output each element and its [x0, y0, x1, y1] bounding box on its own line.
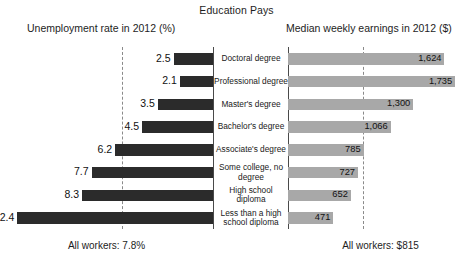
unemployment-value-label: 4.5: [124, 120, 139, 132]
earnings-cell: 1,066: [288, 116, 473, 139]
left-axis-title: Unemployment rate in 2012 (%): [27, 22, 175, 34]
earnings-value-label: 471: [315, 212, 334, 222]
category-label: Master's degree: [214, 93, 288, 116]
unemployment-cell: 4.5: [0, 116, 213, 139]
unemployment-value-label: 2.5: [156, 52, 171, 64]
chart-row: 6.2Associate's degree785: [0, 139, 473, 162]
category-label: Some college, no degree: [214, 161, 288, 184]
earnings-cell: 785: [288, 139, 473, 162]
unemployment-value-label: 6.2: [98, 143, 113, 155]
unemployment-bar: [180, 76, 213, 88]
left-footnote: All workers: 7.8%: [0, 240, 213, 251]
plot-area: 2.5Doctoral degree1,6242.1Professional d…: [0, 47, 473, 229]
earnings-value-label: 1,300: [387, 98, 413, 108]
unemployment-value-label: 8.3: [64, 188, 79, 200]
unemployment-value-label: 7.7: [74, 165, 89, 177]
education-pays-chart: Education Pays Unemployment rate in 2012…: [0, 0, 473, 271]
unemployment-bar: [158, 99, 213, 111]
unemployment-cell: 3.5: [0, 93, 213, 116]
chart-row: 2.1Professional degree1,735: [0, 70, 473, 93]
chart-row: 3.5Master's degree1,300: [0, 93, 473, 116]
unemployment-bar: [92, 167, 213, 179]
unemployment-bar: [174, 53, 213, 65]
earnings-value-label: 1,624: [418, 53, 444, 63]
chart-row: 2.5Doctoral degree1,624: [0, 48, 473, 71]
chart-title: Education Pays: [0, 4, 473, 16]
earnings-value-label: 785: [345, 144, 364, 154]
unemployment-bar: [142, 121, 213, 133]
right-axis-title: Median weekly earnings in 2012 ($): [286, 22, 452, 34]
earnings-value-label: 652: [332, 189, 351, 199]
category-label: Doctoral degree: [214, 48, 288, 71]
category-label: Professional degree: [214, 70, 288, 93]
unemployment-bar: [115, 144, 213, 156]
chart-row: 4.5Bachelor's degree1,066: [0, 116, 473, 139]
earnings-cell: 1,300: [288, 93, 473, 116]
earnings-cell: 1,624: [288, 48, 473, 71]
unemployment-value-label: 3.5: [140, 97, 155, 109]
unemployment-cell: 12.4: [0, 207, 213, 230]
right-footnote: All workers: $815: [288, 240, 473, 251]
unemployment-cell: 2.1: [0, 70, 213, 93]
unemployment-value-label: 12.4: [0, 211, 14, 223]
earnings-value-label: 727: [340, 167, 359, 177]
earnings-cell: 471: [288, 207, 473, 230]
chart-row: 8.3High school diploma652: [0, 184, 473, 207]
earnings-cell: 727: [288, 161, 473, 184]
chart-row: 7.7Some college, no degree727: [0, 161, 473, 184]
category-label: Bachelor's degree: [214, 116, 288, 139]
unemployment-cell: 2.5: [0, 48, 213, 71]
unemployment-cell: 8.3: [0, 184, 213, 207]
earnings-value-label: 1,066: [364, 121, 390, 131]
earnings-cell: 1,735: [288, 70, 473, 93]
earnings-value-label: 1,735: [429, 76, 455, 86]
unemployment-cell: 6.2: [0, 139, 213, 162]
category-label: High school diploma: [214, 184, 288, 207]
earnings-cell: 652: [288, 184, 473, 207]
category-label: Less than a high school diploma: [214, 207, 288, 230]
chart-row: 12.4Less than a high school diploma471: [0, 207, 473, 230]
unemployment-cell: 7.7: [0, 161, 213, 184]
category-label: Associate's degree: [214, 139, 288, 162]
unemployment-value-label: 2.1: [162, 74, 177, 86]
unemployment-bar: [17, 212, 213, 224]
unemployment-bar: [82, 190, 213, 202]
